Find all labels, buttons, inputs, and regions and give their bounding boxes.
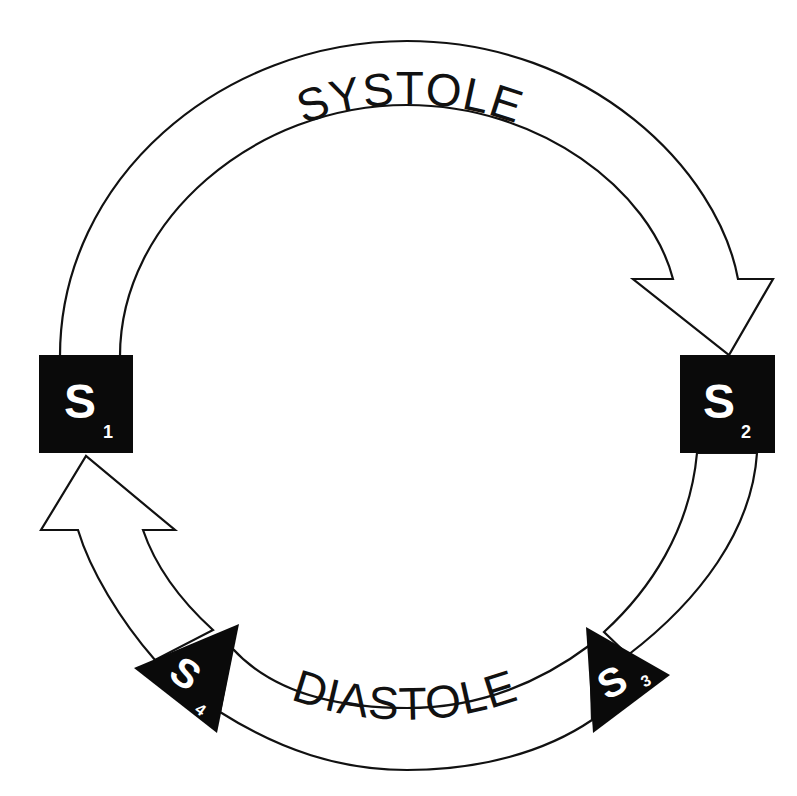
node-s2-letter: S — [703, 375, 735, 428]
node-s1-letter: S — [64, 375, 96, 428]
diastole-label: DIASTOLE — [287, 659, 523, 730]
cardiac-cycle-diagram: SYSTOLE DIASTOLE S 1 S 2 S 3 S 4 — [0, 0, 797, 796]
systole-label: SYSTOLE — [290, 62, 530, 133]
node-s2-subscript: 2 — [741, 422, 751, 442]
diastole-return-arrow — [41, 456, 213, 660]
diastole-band-right — [604, 453, 757, 655]
node-s1: S 1 — [39, 355, 133, 453]
node-s2: S 2 — [680, 355, 775, 453]
node-s1-subscript: 1 — [103, 422, 113, 442]
